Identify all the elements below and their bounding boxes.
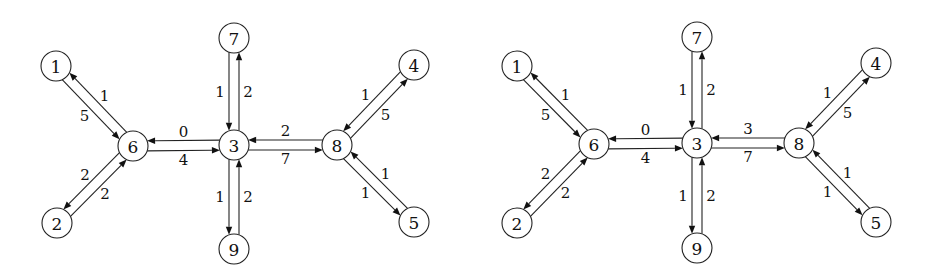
node-9: 9 [682,233,712,263]
arrowhead-icon [675,145,683,151]
edge-weight-label: 1 [215,188,225,206]
node-5: 5 [399,207,429,237]
edge-1-to-6: 5 [523,80,580,138]
node-label: 6 [589,135,600,155]
edge-weight-label: 1 [678,81,688,99]
edge-line [530,163,582,216]
node-label: 8 [332,136,343,156]
arrowhead-icon [689,226,695,234]
arrowhead-icon [777,145,785,151]
edge-8-to-3: 3 [711,120,785,141]
edge-weight-label: 1 [843,164,853,182]
nodes: 123456789 [41,23,429,264]
edge-8-to-5: 1 [805,157,862,216]
node-label: 6 [128,137,139,157]
edge-1-to-6: 5 [62,80,119,140]
node-label: 5 [871,213,882,233]
arrowhead-icon [226,123,232,131]
node-2: 2 [502,208,532,238]
weighted-digraph-figure: 1522041212271511123456789152204121237151… [0,0,927,280]
right-graph: 1522041212371511123456789 [502,22,891,263]
edge-line [529,151,581,204]
edge-9-to-3: 2 [699,157,716,234]
left-graph: 1522041212271511123456789 [41,23,429,264]
node-label: 7 [692,28,703,48]
edge-3-to-8: 7 [711,145,785,166]
edge-weight-label: 2 [80,166,90,184]
edge-line [349,72,401,126]
edge-7-to-3: 1 [215,52,232,131]
edge-6-to-2: 2 [523,151,580,210]
edge-weight-label: 2 [243,188,253,206]
edge-weight-label: 1 [361,86,371,104]
edge-line [70,165,121,216]
edge-6-to-1: 1 [69,73,126,133]
arrowhead-icon [699,157,705,165]
edge-weight-label: 1 [561,86,571,104]
edge-5-to-8: 1 [812,150,869,209]
edge-weight-label: 0 [179,123,189,141]
edge-weight-label: 5 [541,106,551,124]
edge-weight-label: 1 [215,83,225,101]
node-6: 6 [579,129,609,159]
edge-weight-label: 3 [743,120,753,138]
edge-weight-label: 1 [361,184,371,202]
edge-8-to-5: 1 [343,159,400,216]
node-label: 2 [512,214,523,234]
edge-2-to-6: 2 [530,158,587,217]
node-3: 3 [682,128,712,158]
edge-3-to-6: 0 [608,121,683,142]
edge-weight-label: 2 [706,187,716,205]
edge-8-to-3: 2 [248,122,323,143]
node-label: 7 [229,29,240,49]
nodes: 123456789 [502,22,891,263]
node-8: 8 [322,130,352,160]
node-9: 9 [219,234,249,264]
edge-weight-label: 1 [823,84,833,102]
edge-weight-label: 0 [641,121,651,139]
edge-weight-label: 4 [179,151,189,169]
edge-weight-label: 2 [281,122,291,140]
node-label: 4 [871,54,882,74]
edge-6-to-1: 1 [530,73,587,131]
arrowhead-icon [236,159,242,167]
edge-weight-label: 1 [823,183,833,201]
node-label: 3 [229,136,240,156]
arrowhead-icon [699,51,705,59]
edge-4-to-8: 1 [805,70,862,130]
edge-weight-label: 5 [381,106,391,124]
arrowhead-icon [689,121,695,129]
arrowhead-icon [248,137,256,143]
node-7: 7 [682,22,712,52]
node-1: 1 [41,51,71,81]
edge-3-to-6: 0 [147,123,220,144]
edge-weight-label: 5 [843,104,853,122]
edge-line [812,82,864,136]
node-label: 8 [794,134,805,154]
node-7: 7 [219,23,249,53]
node-8: 8 [784,128,814,158]
node-label: 2 [52,214,63,234]
edge-line [69,153,120,204]
node-2: 2 [42,208,72,238]
edge-3-to-9: 1 [215,159,232,235]
node-label: 4 [409,56,420,76]
arrowhead-icon [608,136,616,142]
node-6: 6 [118,131,148,161]
edge-2-to-6: 2 [70,160,126,217]
edge-weight-label: 1 [100,87,110,105]
edge-weight-label: 2 [100,185,110,203]
edge-3-to-7: 2 [699,51,716,129]
node-5: 5 [861,207,891,237]
edge-8-to-4: 5 [812,77,869,137]
arrowhead-icon [236,52,242,60]
node-label: 5 [409,213,420,233]
node-label: 9 [229,240,240,260]
edge-6-to-3: 4 [147,147,220,168]
edge-6-to-2: 2 [63,153,119,210]
node-3: 3 [219,130,249,160]
edge-weight-label: 7 [281,150,291,168]
edge-weight-label: 2 [243,83,253,101]
edge-8-to-4: 5 [350,79,407,139]
arrowhead-icon [315,147,323,153]
